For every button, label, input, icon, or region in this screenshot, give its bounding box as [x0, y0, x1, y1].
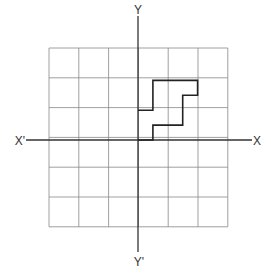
y-prime-axis-label: Y' — [134, 255, 144, 269]
coordinate-diagram: Y Y' X X' — [0, 0, 271, 277]
x-axis-label: X — [253, 134, 261, 148]
x-prime-axis-label: X' — [15, 134, 25, 148]
y-axis-label: Y — [134, 3, 142, 17]
axes — [26, 16, 252, 252]
